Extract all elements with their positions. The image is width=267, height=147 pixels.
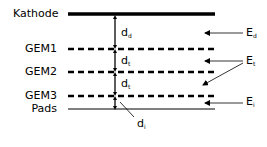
symbol-dt2-sub: t: [128, 83, 130, 90]
symbol-dt1-sub: t: [128, 60, 130, 67]
label-gem1: GEM1: [25, 43, 57, 55]
symbol-ei-main: E: [246, 95, 253, 108]
symbol-dt2: dt: [121, 78, 130, 93]
symbol-ei-sub: i: [253, 101, 255, 108]
symbol-ed: Ed: [246, 27, 257, 42]
et-arrow-2: [203, 63, 243, 85]
label-gem3: GEM3: [25, 90, 57, 102]
symbol-dt1: dt: [121, 55, 130, 70]
symbol-dd-sub: d: [128, 32, 132, 39]
label-pads: Pads: [31, 103, 57, 115]
symbol-dt1-main: d: [121, 54, 128, 67]
symbol-et-sub: t: [253, 60, 255, 67]
symbol-di-main: d: [137, 117, 144, 130]
label-gem2: GEM2: [25, 66, 57, 78]
symbol-di-sub: i: [144, 123, 146, 130]
symbol-ed-sub: d: [253, 32, 257, 39]
symbol-ei: Ei: [246, 96, 255, 111]
symbol-di: di: [137, 118, 146, 133]
label-kathode: Kathode: [13, 8, 59, 20]
symbol-ed-main: E: [246, 26, 253, 39]
symbol-dd: dd: [121, 27, 132, 42]
symbol-et: Et: [246, 55, 255, 70]
symbol-dd-main: d: [121, 26, 128, 39]
symbol-et-main: E: [246, 54, 253, 67]
symbol-dt2-main: d: [121, 77, 128, 90]
